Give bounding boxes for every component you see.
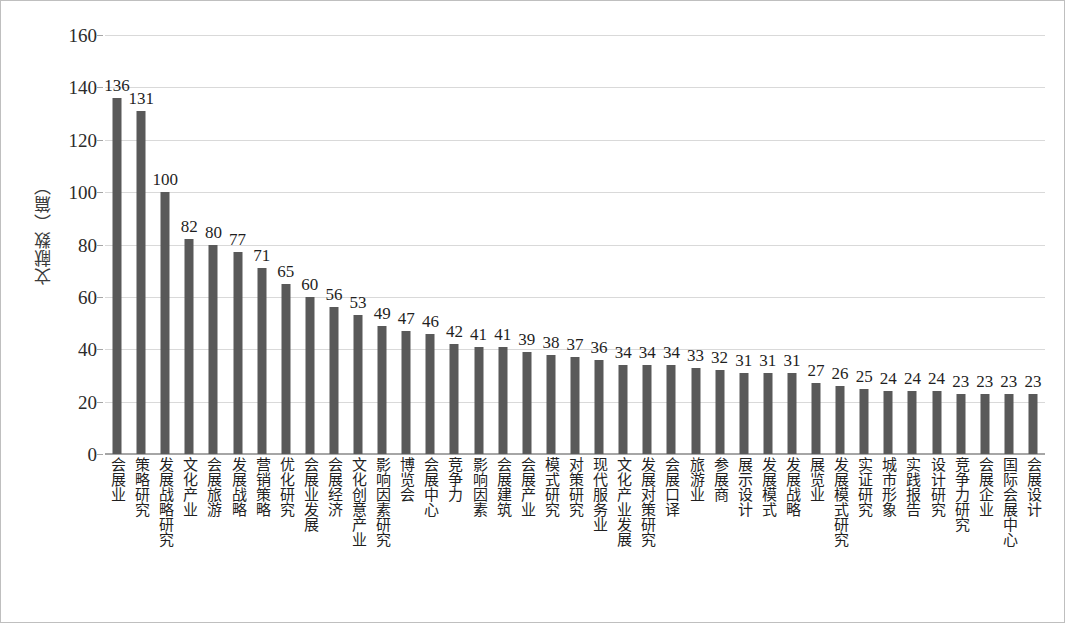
bar-value-label: 37 (566, 336, 583, 353)
y-axis-tick-label: 0 (53, 445, 97, 464)
bar-slot: 24 (924, 35, 948, 454)
bar-slot: 71 (250, 35, 274, 454)
bar (257, 268, 266, 454)
y-axis-tick-mark (97, 192, 103, 193)
x-axis-category-label: 会展设计 (1025, 457, 1040, 517)
bar-value-label: 38 (542, 334, 559, 351)
bar-value-label: 24 (928, 370, 945, 387)
y-axis-tick-label: 140 (53, 78, 97, 97)
y-axis-tick-mark (97, 35, 103, 36)
bar (402, 331, 411, 454)
x-axis-category-label: 会展经济 (326, 457, 341, 517)
bar-slot: 23 (1021, 35, 1045, 454)
bar-slot: 37 (563, 35, 587, 454)
bar (932, 391, 941, 454)
bar-slot: 27 (804, 35, 828, 454)
bar-slot: 23 (949, 35, 973, 454)
bar-value-label: 25 (856, 368, 873, 385)
bar-slot: 49 (370, 35, 394, 454)
x-axis-category-label: 优化研究 (278, 457, 293, 517)
bar (956, 394, 965, 454)
x-axis-category-label: 模式研究 (543, 457, 558, 517)
bar (426, 334, 435, 454)
bar-value-label: 41 (494, 326, 511, 343)
x-axis-category-label: 会展口译 (664, 457, 679, 517)
bar (474, 347, 483, 454)
bar-value-label: 23 (952, 373, 969, 390)
x-axis-category-label: 博览会 (399, 457, 414, 502)
y-axis-tick-mark (97, 140, 103, 141)
bar-slot: 32 (708, 35, 732, 454)
y-axis-tick-mark (97, 297, 103, 298)
bar-value-label: 36 (591, 339, 608, 356)
bar (691, 368, 700, 454)
bar-value-label: 32 (711, 349, 728, 366)
bar-slot: 56 (322, 35, 346, 454)
bar (739, 373, 748, 454)
x-axis-category-label: 竞争力 (447, 457, 462, 502)
bar-slot: 34 (611, 35, 635, 454)
bar-value-label: 26 (832, 365, 849, 382)
bar-value-label: 31 (783, 352, 800, 369)
bar-slot: 31 (780, 35, 804, 454)
bar-value-label: 23 (976, 373, 993, 390)
x-axis-category-label: 会展建筑 (495, 457, 510, 517)
bar (498, 347, 507, 454)
y-axis-tick-mark (97, 349, 103, 350)
bar (305, 297, 314, 454)
bar-slot: 23 (997, 35, 1021, 454)
bar (137, 111, 146, 454)
bar-slot: 41 (467, 35, 491, 454)
x-axis-category-label: 会展业 (110, 457, 125, 502)
bar-slot: 33 (683, 35, 707, 454)
bar-slot: 42 (442, 35, 466, 454)
x-axis-category-label: 发展对策研究 (640, 457, 655, 547)
bar (185, 239, 194, 454)
bar-slot: 131 (129, 35, 153, 454)
bar-value-label: 46 (422, 313, 439, 330)
bar-slot: 24 (876, 35, 900, 454)
bar-value-label: 49 (374, 305, 391, 322)
bar-value-label: 27 (808, 362, 825, 379)
bar-chart-figure: 文献数（篇） 020406080100120140160 13613110082… (0, 0, 1065, 623)
bar-slot: 60 (298, 35, 322, 454)
y-axis-tick-label: 20 (53, 392, 97, 411)
x-axis-category-label: 参展商 (712, 457, 727, 502)
bar-value-label: 23 (1000, 373, 1017, 390)
bar (329, 307, 338, 454)
x-axis-category-label: 发展战略研究 (158, 457, 173, 547)
bar-value-label: 23 (1024, 373, 1041, 390)
bar (908, 391, 917, 454)
bar-slot: 53 (346, 35, 370, 454)
x-axis-category-label: 对策研究 (568, 457, 583, 517)
bar-value-label: 60 (301, 276, 318, 293)
x-axis-category-label: 实践报告 (905, 457, 920, 517)
bar (763, 373, 772, 454)
bar-value-label: 65 (277, 263, 294, 280)
bar (354, 315, 363, 454)
x-axis-category-label: 城市形象 (881, 457, 896, 517)
y-axis-tick-mark (97, 245, 103, 246)
bar (570, 357, 579, 454)
bar (546, 355, 555, 455)
bar-value-label: 71 (253, 247, 270, 264)
bar-slot: 38 (539, 35, 563, 454)
bar (860, 389, 869, 454)
bar-value-label: 47 (398, 310, 415, 327)
x-axis-category-label: 发展战略 (230, 457, 245, 517)
y-axis-tick-mark (97, 402, 103, 403)
bar-slot: 26 (828, 35, 852, 454)
x-axis-category-label: 会展业发展 (302, 457, 317, 532)
bar-slot: 36 (587, 35, 611, 454)
x-axis-category-label: 策略研究 (134, 457, 149, 517)
x-axis-category-label: 文化产业发展 (616, 457, 631, 547)
x-axis-category-label: 展览业 (809, 457, 824, 502)
bar (209, 245, 218, 455)
bar (715, 370, 724, 454)
bar-value-label: 34 (639, 344, 656, 361)
bar-series: 1361311008280777165605653494746424141393… (105, 35, 1045, 454)
bar (233, 252, 242, 454)
bar-value-label: 31 (735, 352, 752, 369)
x-axis-category-label: 发展模式研究 (833, 457, 848, 547)
bar (1004, 394, 1013, 454)
